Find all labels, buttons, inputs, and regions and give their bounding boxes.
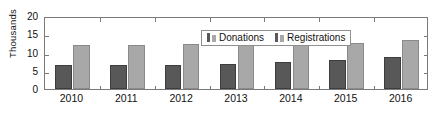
bar-group bbox=[374, 18, 429, 89]
x-tick-label: 2013 bbox=[209, 92, 264, 104]
axis-tick-mark bbox=[45, 73, 49, 74]
bar-registrations bbox=[73, 45, 90, 89]
bar-registrations bbox=[238, 43, 255, 89]
bar-swatch-light-icon bbox=[275, 33, 284, 42]
bar-group bbox=[100, 18, 155, 89]
y-axis-title: Thousands bbox=[7, 0, 18, 72]
legend-label: Registrations bbox=[287, 33, 345, 43]
y-axis-tick-labels: 05101520 bbox=[18, 0, 38, 120]
bar-registrations bbox=[402, 40, 419, 89]
y-tick-label: 0 bbox=[22, 85, 38, 95]
y-tick-label: 10 bbox=[22, 49, 38, 59]
y-tick-label: 5 bbox=[22, 67, 38, 77]
bar-group bbox=[210, 18, 265, 89]
axis-tick-mark bbox=[374, 86, 375, 90]
bar-registrations bbox=[293, 43, 310, 89]
bar-group bbox=[264, 18, 319, 89]
x-tick-label: 2015 bbox=[318, 92, 373, 104]
axis-tick-mark bbox=[374, 18, 375, 22]
bar-registrations bbox=[347, 43, 364, 89]
chart-legend: DonationsRegistrations bbox=[201, 30, 351, 46]
axis-tick-mark bbox=[424, 55, 428, 56]
bar-donations bbox=[329, 60, 346, 89]
axis-tick-mark bbox=[155, 18, 156, 22]
bar-groups bbox=[45, 18, 427, 89]
x-tick-label: 2010 bbox=[44, 92, 99, 104]
axis-tick-mark bbox=[45, 55, 49, 56]
axis-tick-mark bbox=[210, 86, 211, 90]
y-tick-label: 20 bbox=[22, 12, 38, 22]
bar-donations bbox=[110, 65, 127, 89]
axis-tick-mark bbox=[319, 18, 320, 22]
bar-registrations bbox=[183, 44, 200, 89]
bar-registrations bbox=[128, 45, 145, 89]
axis-tick-mark bbox=[210, 18, 211, 22]
x-tick-label: 2011 bbox=[99, 92, 154, 104]
legend-item: Registrations bbox=[275, 33, 345, 43]
x-tick-label: 2012 bbox=[154, 92, 209, 104]
axis-tick-mark bbox=[264, 86, 265, 90]
plot-area: DonationsRegistrations bbox=[44, 17, 428, 90]
axis-tick-mark bbox=[100, 86, 101, 90]
bar-donations bbox=[384, 57, 401, 89]
axis-tick-mark bbox=[45, 36, 49, 37]
bar-swatch-dark-icon bbox=[207, 33, 216, 42]
axis-tick-mark bbox=[424, 36, 428, 37]
bar-donations bbox=[275, 62, 292, 89]
legend-item: Donations bbox=[207, 33, 264, 43]
axis-tick-mark bbox=[155, 86, 156, 90]
x-tick-label: 2016 bbox=[373, 92, 428, 104]
bar-donations bbox=[165, 65, 182, 89]
y-tick-label: 15 bbox=[22, 30, 38, 40]
bar-group bbox=[319, 18, 374, 89]
axis-tick-mark bbox=[424, 73, 428, 74]
axis-tick-mark bbox=[319, 86, 320, 90]
bar-chart: Thousands 05101520 DonationsRegistration… bbox=[0, 0, 444, 120]
axis-tick-mark bbox=[264, 18, 265, 22]
bar-donations bbox=[220, 64, 237, 89]
legend-label: Donations bbox=[219, 33, 264, 43]
bar-group bbox=[155, 18, 210, 89]
x-tick-label: 2014 bbox=[263, 92, 318, 104]
bar-group bbox=[45, 18, 100, 89]
axis-tick-mark bbox=[100, 18, 101, 22]
bar-donations bbox=[55, 65, 72, 89]
